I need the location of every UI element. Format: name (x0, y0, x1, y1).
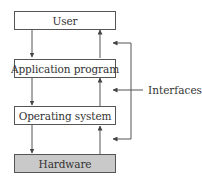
layer-application-label: Application program (11, 63, 119, 75)
layer-hardware-label: Hardware (39, 158, 92, 170)
layer-user: User (14, 11, 116, 30)
layer-os-label: Operating system (19, 110, 112, 122)
layer-operating-system: Operating system (14, 106, 116, 125)
layer-application-program: Application program (14, 59, 116, 78)
interfaces-label: Interfaces (148, 84, 202, 96)
layer-user-label: User (52, 15, 77, 27)
layer-hardware: Hardware (14, 154, 116, 173)
